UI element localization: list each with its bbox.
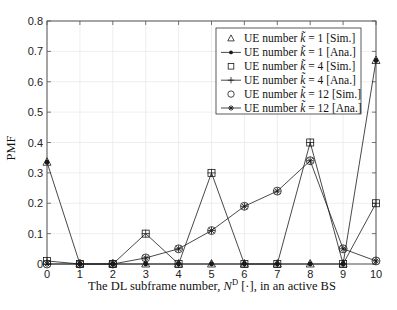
legend-label: UE number k̃ = 1 [Sim.] (244, 31, 355, 44)
y-tick-label: 0 (37, 258, 43, 270)
legend-label: UE number k̃ = 12 [Sim.] (244, 86, 361, 99)
dot-marker-icon (209, 262, 214, 267)
dot-marker-icon (374, 58, 379, 63)
plus-marker-icon (208, 169, 216, 177)
asterisk-marker-icon (44, 261, 51, 268)
legend-label: UE number k̃ = 4 [Sim.] (244, 59, 355, 72)
plus-marker-icon (306, 139, 314, 147)
legend: UE number k̃ = 1 [Sim.]UE number k̃ = 1 … (216, 28, 362, 114)
y-tick-label: 0.3 (28, 167, 43, 179)
asterisk-marker-icon (274, 188, 281, 195)
asterisk-marker-icon (241, 203, 248, 210)
y-tick-label: 0.6 (28, 76, 43, 88)
x-axis-label-suffix: [·], in an active BS (238, 279, 336, 293)
y-tick-label: 0.1 (28, 228, 43, 240)
asterisk-marker-icon (142, 254, 149, 261)
dot-marker-icon (45, 160, 50, 165)
asterisk-marker-icon (109, 261, 116, 268)
y-tick-label: 0.7 (28, 45, 43, 57)
x-tick-label: 9 (340, 268, 346, 280)
y-tick-label: 0.4 (28, 137, 43, 149)
y-axis-label: PMF (4, 135, 18, 160)
y-tick-label: 0.8 (28, 15, 43, 27)
x-tick-label: 10 (370, 268, 382, 280)
plus-marker-icon (372, 199, 380, 207)
x-tick-label: 1 (77, 268, 83, 280)
asterisk-marker-icon (76, 261, 83, 268)
dot-marker-icon (229, 50, 233, 54)
legend-label: UE number k̃ = 12 [Ana.] (244, 100, 362, 113)
asterisk-marker-icon (307, 157, 314, 164)
asterisk-marker-icon (228, 105, 234, 111)
legend-label: UE number k̃ = 4 [Ana.] (244, 72, 356, 85)
pmf-chart: 01234567891000.10.20.30.40.50.60.70.8 PM… (0, 0, 397, 310)
asterisk-marker-icon (208, 227, 215, 234)
legend-item: UE number k̃ = 4 [Sim.] (228, 59, 355, 72)
x-axis-label: The DL subframe number, ND [·], in an ac… (88, 277, 336, 293)
legend-item: UE number k̃ = 12 [Sim.] (228, 86, 361, 99)
x-axis-label-prefix: The DL subframe number, (88, 279, 223, 293)
x-tick-label: 0 (44, 268, 50, 280)
y-tick-label: 0.5 (28, 106, 43, 118)
asterisk-marker-icon (373, 257, 380, 264)
y-tick-label: 0.2 (28, 197, 43, 209)
dot-marker-icon (308, 262, 313, 267)
legend-label: UE number k̃ = 1 [Ana.] (244, 45, 356, 58)
legend-item: UE number k̃ = 1 [Sim.] (228, 31, 355, 44)
asterisk-marker-icon (175, 245, 182, 252)
